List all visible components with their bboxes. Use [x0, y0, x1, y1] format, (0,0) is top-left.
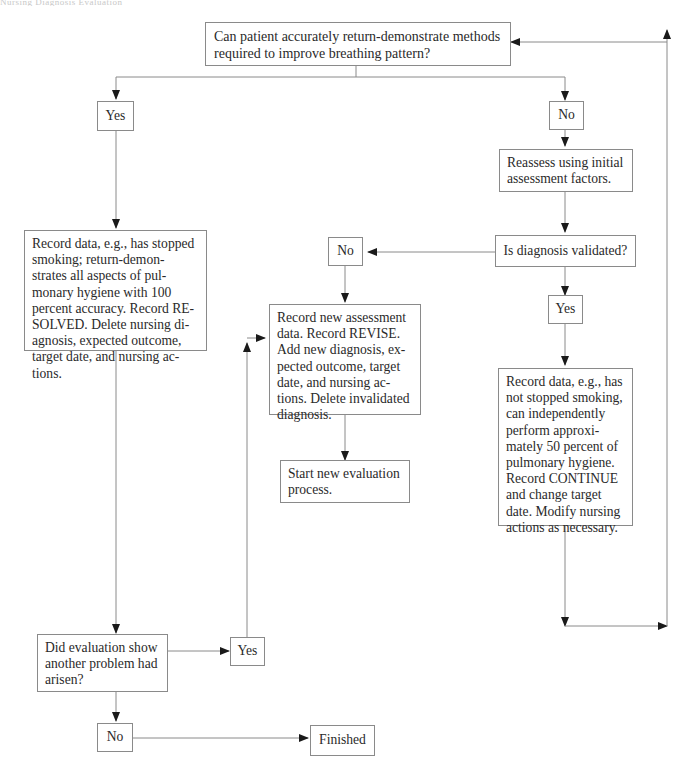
another-problem-box: Did evaluation show another problem had … — [37, 634, 168, 692]
finished-label: Finished — [319, 732, 366, 748]
revise-record-box: Record new assessment data. Record REVIS… — [269, 304, 421, 415]
no-top-label: No — [558, 107, 575, 123]
yes-right-box: Yes — [548, 295, 583, 324]
reassess-box: Reassess using initial assessment factor… — [499, 149, 633, 192]
no-middle-box: No — [328, 237, 363, 266]
finished-box: Finished — [310, 725, 375, 756]
no-bottom-box: No — [97, 723, 133, 752]
resolved-record-box: Record data, e.g., has stopped smoking; … — [24, 230, 207, 351]
new-evaluation-box: Start new evaluation process. — [280, 460, 410, 503]
yes-bottom-label: Yes — [238, 643, 258, 659]
yes-top-label: Yes — [106, 108, 126, 124]
no-middle-label: No — [337, 243, 354, 259]
no-bottom-label: No — [107, 729, 124, 745]
no-top-box: No — [549, 101, 584, 130]
yes-top-box: Yes — [97, 101, 134, 131]
yes-right-label: Yes — [556, 301, 576, 317]
diagnosis-validated-label: Is diagnosis validated? — [504, 243, 628, 259]
diagnosis-validated-box: Is diagnosis validated? — [495, 235, 636, 267]
yes-bottom-box: Yes — [230, 637, 265, 666]
continue-record-box: Record data, e.g., has not stopped smoki… — [498, 368, 633, 526]
start-question-box: Can patient accurately return-demonstrat… — [205, 22, 511, 66]
